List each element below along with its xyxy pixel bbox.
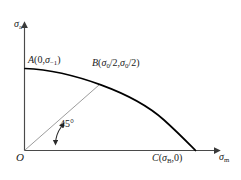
point-b-label: B(σ0/2,σ0/2) [92, 58, 140, 70]
haigh-diagram-figure: σa σm O A(0,σ−1) B(σ0/2,σ0/2) C(σB,0) 45… [0, 0, 241, 180]
origin-label: O [16, 152, 24, 163]
point-a-paren-close: ) [57, 54, 60, 65]
y-axis-label: σa [14, 19, 22, 31]
y-axis-subscript: a [19, 23, 22, 30]
point-b-x-divisor: /2 [110, 57, 118, 68]
diagram-canvas [0, 0, 241, 180]
point-c-paren-close: ) [179, 152, 182, 163]
point-c-name: C [152, 152, 159, 163]
point-a-label: A(0,σ−1) [28, 55, 60, 67]
x-axis-subscript: m [224, 156, 229, 163]
point-b-paren-close: ) [136, 57, 139, 68]
angle-arc-double-arrow [56, 127, 62, 145]
angle-45-label: 45° [60, 119, 74, 129]
limit-curve [25, 69, 196, 151]
x-axis-label: σm [219, 152, 229, 164]
point-c-label: C(σB,0) [152, 153, 182, 165]
